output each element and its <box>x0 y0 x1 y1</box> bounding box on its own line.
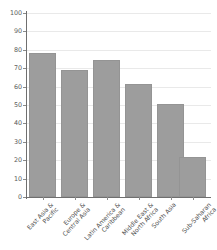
y-tick-label-50: 50 <box>0 102 22 108</box>
y-tick-mark <box>23 13 26 14</box>
y-tick-label-60: 60 <box>0 84 22 90</box>
x-axis-labels: East Asia & Pacific Europe & Central Asi… <box>0 197 217 250</box>
y-tick-mark <box>23 142 26 143</box>
gridline <box>27 50 211 51</box>
bar-chart: 100 90 80 70 60 50 40 30 20 10 0 East As… <box>0 0 217 250</box>
y-tick-mark <box>23 105 26 106</box>
y-tick-mark <box>23 31 26 32</box>
y-tick-mark <box>23 68 26 69</box>
y-tick-label-80: 80 <box>0 47 22 53</box>
y-tick-mark <box>23 160 26 161</box>
y-tick-label-90: 90 <box>0 28 22 34</box>
plot-area <box>27 13 211 197</box>
bar-east-asia-pacific <box>29 53 56 197</box>
y-tick-label-70: 70 <box>0 65 22 71</box>
y-tick-mark <box>23 87 26 88</box>
y-tick-label-20: 20 <box>0 157 22 163</box>
y-tick-mark <box>23 179 26 180</box>
y-axis-line <box>26 11 27 199</box>
y-tick-label-30: 30 <box>0 139 22 145</box>
y-tick-mark <box>23 123 26 124</box>
y-tick-label-100: 100 <box>0 10 22 16</box>
y-tick-label-40: 40 <box>0 120 22 126</box>
y-tick-label-10: 10 <box>0 176 22 182</box>
gridline <box>27 31 211 32</box>
gridline <box>27 13 211 14</box>
y-tick-mark <box>23 50 26 51</box>
